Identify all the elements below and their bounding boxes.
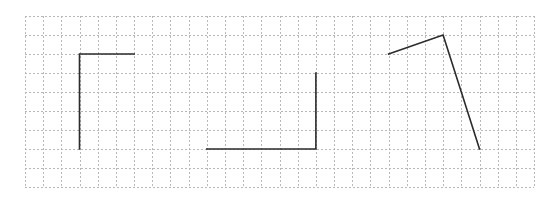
grid-diagram [0,0,554,202]
angle-figures [80,35,480,149]
angle-1 [80,54,135,149]
dotted-grid [25,16,535,188]
